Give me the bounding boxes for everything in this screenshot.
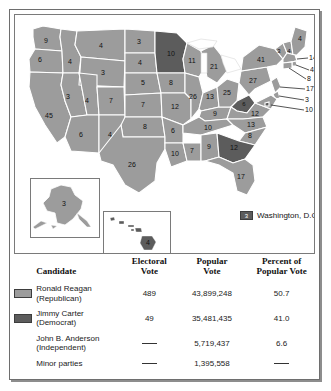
header-popular-vote: Popular Vote	[176, 256, 249, 281]
state-label-ID: 4	[68, 58, 72, 65]
dc-swatch: 3	[240, 211, 253, 220]
state-label-OH: 25	[223, 89, 231, 96]
row-popular-vote: 1,395,558	[176, 356, 249, 371]
state-label-CO: 7	[109, 97, 113, 104]
alaska-inset: 3	[30, 178, 100, 238]
row-popular-vote: 35,481,435	[176, 306, 249, 331]
row-percent: 41.0	[248, 306, 315, 331]
header-popular-vote-line2: Vote	[176, 266, 249, 276]
row-candidate-cell: Jimmy Carter (Democrat)	[36, 306, 123, 331]
state-label-MO: 12	[171, 103, 179, 110]
leader-label-MA: 14	[309, 54, 314, 61]
washington-dc-legend: 3 Washington, D.C.	[240, 211, 315, 220]
state-label-IN: 13	[206, 93, 214, 100]
hawaii-map: 4	[104, 212, 170, 254]
header-candidate: Candidate	[36, 256, 123, 281]
alaska-aleutians	[33, 221, 57, 229]
state-label-KY: 9	[213, 110, 217, 117]
row-electoral-vote: 49	[123, 306, 176, 331]
candidate-name: Ronald Reagan	[36, 284, 123, 293]
row-percent: 6.6	[248, 331, 315, 356]
row-percent: 50.7	[248, 281, 315, 306]
state-label-AZ: 6	[79, 131, 83, 138]
leader-line-RI	[296, 65, 309, 70]
results-table-panel: Candidate Electoral Vote Popular Vote Pe…	[14, 256, 315, 375]
state-label-IL: 26	[189, 93, 197, 100]
state-label-SD: 4	[138, 59, 142, 66]
leader-label-RI: 4	[310, 66, 314, 73]
island-maui	[135, 228, 142, 232]
leader-line-DE	[279, 96, 304, 100]
row-percent	[248, 356, 315, 371]
state-label-OK: 8	[143, 123, 147, 130]
legend-swatch-republican	[14, 289, 32, 298]
header-percent-line2: Popular Vote	[248, 266, 315, 276]
candidate-name: Jimmy Carter	[36, 309, 123, 318]
header-electoral-vote-line1: Electoral	[123, 256, 176, 266]
row-candidate-cell: John B. Anderson (Independent)	[36, 331, 123, 356]
state-OR	[29, 49, 63, 73]
table-header-row: Candidate Electoral Vote Popular Vote Pe…	[14, 256, 315, 281]
island-kauai	[110, 217, 115, 221]
state-label-MI: 21	[210, 63, 218, 70]
row-candidate-cell: Minor parties	[36, 356, 123, 371]
state-label-UT: 4	[85, 97, 89, 104]
state-label-TN: 10	[204, 124, 212, 131]
northeast-leader-labels: 14 4 8 17 3 10	[305, 54, 314, 113]
state-label-OR: 6	[38, 56, 42, 63]
island-oahu	[119, 221, 124, 224]
state-label-NV: 3	[66, 93, 70, 100]
dc-legend-label: Washington, D.C.	[257, 211, 315, 220]
row-popular-vote: 5,719,437	[176, 331, 249, 356]
leader-label-MD: 10	[305, 106, 313, 113]
state-label-NC: 13	[247, 121, 255, 128]
candidate-party: (Independent)	[36, 343, 123, 352]
state-label-IA: 8	[169, 79, 173, 86]
dash-icon	[142, 363, 157, 364]
state-label-WA: 9	[44, 37, 48, 44]
state-label-ME: 4	[298, 35, 302, 42]
table-row: Minor parties 1,395,558	[14, 356, 315, 371]
row-electoral-vote: 489	[123, 281, 176, 306]
table-header: Candidate Electoral Vote Popular Vote Pe…	[14, 256, 315, 281]
state-label-MT: 4	[99, 42, 103, 49]
state-label-SC: 8	[248, 132, 252, 139]
leader-line-CT	[289, 68, 306, 79]
row-swatch-cell	[14, 331, 36, 356]
election-results-table: Candidate Electoral Vote Popular Vote Pe…	[14, 256, 315, 371]
row-swatch-cell	[14, 281, 36, 306]
row-candidate-cell: Ronald Reagan (Republican)	[36, 281, 123, 306]
table-body: Ronald Reagan (Republican) 489 43,899,24…	[14, 281, 315, 371]
leader-line-MA	[297, 58, 308, 59]
alaska-map: 3	[31, 179, 99, 237]
election-map-figure: 9 6 45 3 4 4 3 4 6 4 7 3 4 5 7 8 26 10 8…	[9, 9, 320, 380]
state-label-TX: 26	[128, 161, 136, 168]
candidate-party: (Republican)	[36, 294, 123, 303]
row-popular-vote: 43,899,248	[176, 281, 249, 306]
state-CT	[283, 62, 292, 69]
header-percent-line1: Percent of	[248, 256, 315, 266]
candidate-party: (Democrat)	[36, 318, 123, 327]
state-label-LA: 10	[171, 150, 179, 157]
table-row: Jimmy Carter (Democrat) 49 35,481,435 41…	[14, 306, 315, 331]
island-lanai	[131, 229, 134, 231]
hawaii-inset: 4	[103, 211, 171, 254]
dash-icon	[142, 343, 157, 344]
row-swatch-cell	[14, 306, 36, 331]
state-label-NM: 4	[108, 131, 112, 138]
state-label-MN: 10	[167, 50, 175, 57]
header-percent-popular-vote: Percent of Popular Vote	[248, 256, 315, 281]
alaska-panhandle	[77, 213, 91, 227]
state-label-FL: 17	[237, 173, 245, 180]
state-label-PA: 27	[249, 77, 257, 84]
state-label-VA: 12	[251, 110, 259, 117]
state-label-MS: 7	[190, 147, 194, 154]
candidate-name: John B. Anderson	[36, 334, 123, 343]
state-label-WI: 11	[188, 57, 195, 64]
table-row: Ronald Reagan (Republican) 489 43,899,24…	[14, 281, 315, 306]
header-electoral-vote-line2: Vote	[123, 266, 176, 276]
map-panel: 9 6 45 3 4 4 3 4 6 4 7 3 4 5 7 8 26 10 8…	[14, 14, 315, 254]
row-electoral-vote	[123, 356, 176, 371]
state-label-AK: 3	[62, 200, 66, 207]
state-DC	[265, 102, 269, 106]
